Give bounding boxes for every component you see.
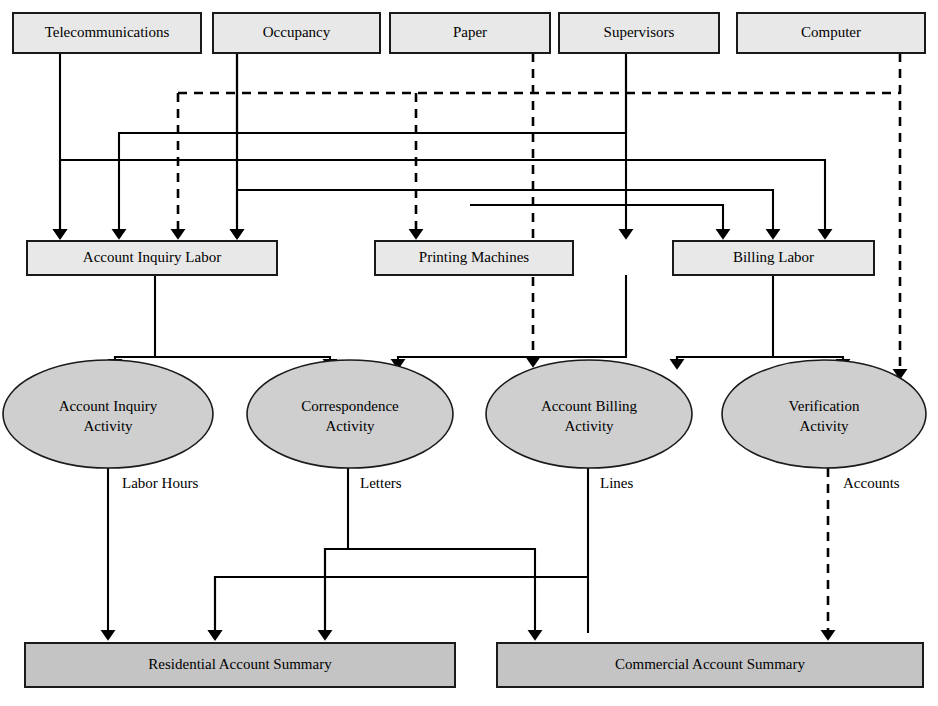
resource-label-occupancy: Occupancy (263, 24, 331, 40)
edge-lines-split (215, 468, 588, 633)
edge-layer (60, 53, 900, 633)
resource-label-supervisors: Supervisors (604, 24, 675, 40)
resource-label-telecommunications: Telecommunications (45, 24, 170, 40)
driver-label-accounts: Accounts (843, 475, 900, 491)
activity-ellipse-verification-activity (722, 360, 926, 468)
resource-telecommunications[interactable]: Telecommunications (13, 13, 201, 53)
activity-ellipse-correspondence-activity (247, 360, 453, 468)
activity-ellipse-account-billing-activity (486, 360, 692, 468)
edge-printing-machines-fanout (398, 275, 626, 362)
edge-bus-190-to-printing (470, 205, 723, 232)
activity-label-line2-account-billing-activity: Activity (564, 418, 614, 434)
resource-label-paper: Paper (453, 24, 487, 40)
cost-object-label-residential-account-summary: Residential Account Summary (148, 656, 332, 672)
activity-verification-activity[interactable]: VerificationActivity (722, 360, 926, 468)
edge-billing-labor-fanout (677, 275, 843, 362)
activity-account-billing-activity[interactable]: Account BillingActivity (486, 360, 692, 468)
diagram-canvas: TelecommunicationsOccupancyPaperSupervis… (0, 0, 938, 706)
edge-horizontal-bus-190 (237, 190, 773, 232)
resource-occupancy[interactable]: Occupancy (213, 13, 380, 53)
edge-branch-1 (325, 549, 348, 633)
resource-supervisors[interactable]: Supervisors (559, 13, 719, 53)
edge-branch-2 (677, 357, 773, 362)
edge-account-inquiry-labor-fanout (115, 275, 330, 362)
resource-computer[interactable]: Computer (737, 13, 925, 53)
activity-label-line1-account-billing-activity: Account Billing (541, 398, 638, 414)
driver-label-labor-hours: Labor Hours (122, 475, 198, 491)
activity-correspondence-activity[interactable]: CorrespondenceActivity (247, 360, 453, 468)
activity-label-line1-verification-activity: Verification (789, 398, 860, 414)
activity-ellipse-account-inquiry-activity (3, 360, 213, 468)
activity-label-line1-account-inquiry-activity: Account Inquiry (59, 398, 158, 414)
cost-pool-label-account-inquiry-labor: Account Inquiry Labor (83, 249, 221, 265)
cost-object-label-commercial-account-summary: Commercial Account Summary (615, 656, 805, 672)
activity-label-line2-account-inquiry-activity: Activity (83, 418, 133, 434)
driver-label-lines: Lines (600, 475, 633, 491)
activity-label-line2-correspondence-activity: Activity (325, 418, 375, 434)
edge-branch-3 (215, 577, 588, 633)
driver-label-letters: Letters (360, 475, 402, 491)
activity-account-inquiry-activity[interactable]: Account InquiryActivity (3, 360, 213, 468)
cost-pool-account-inquiry-labor[interactable]: Account Inquiry Labor (27, 241, 277, 275)
cost-pool-billing-labor[interactable]: Billing Labor (673, 241, 874, 275)
cost-object-commercial-account-summary[interactable]: Commercial Account Summary (497, 643, 923, 687)
resource-label-computer: Computer (801, 24, 861, 40)
activity-label-line1-correspondence-activity: Correspondence (301, 398, 399, 414)
node-layer: TelecommunicationsOccupancyPaperSupervis… (3, 13, 926, 687)
edge-supervisors-to-billing-labor (626, 160, 825, 232)
cost-pool-label-printing-machines: Printing Machines (419, 249, 530, 265)
edge-letters-split (325, 468, 535, 633)
cost-object-residential-account-summary[interactable]: Residential Account Summary (25, 643, 455, 687)
cost-pool-label-billing-labor: Billing Labor (733, 249, 814, 265)
cost-pool-printing-machines[interactable]: Printing Machines (375, 241, 573, 275)
diagram-svg: TelecommunicationsOccupancyPaperSupervis… (0, 0, 938, 706)
activity-label-line2-verification-activity: Activity (799, 418, 849, 434)
resource-paper[interactable]: Paper (390, 13, 550, 53)
